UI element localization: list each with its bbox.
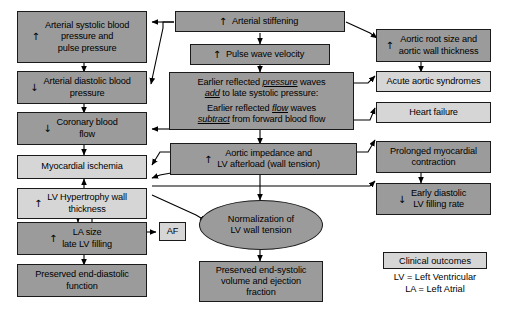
node-acute-aortic-syndromes[interactable]: Acute aortic syndromes (376, 71, 491, 92)
node-coronary-blood-flow[interactable]: ↓ Coronary blood flow (17, 112, 147, 145)
node-label: Normalization of LV wall tension (225, 214, 297, 237)
node-myocardial-ischemia[interactable]: Myocardial ischemia (17, 155, 147, 179)
reflected-pressure-line: Earlier reflected pressure waves add to … (197, 77, 325, 99)
node-heart-failure[interactable]: Heart failure (376, 102, 491, 123)
node-earlier-reflected-waves[interactable]: Earlier reflected pressure waves add to … (169, 72, 354, 130)
node-label: Prolonged myocardial contraction (387, 146, 480, 168)
node-lv-hypertrophy-wall-thickness[interactable]: ↑ LV Hypertrophy wall thickness (17, 188, 147, 219)
legend-abbreviations: LV = Left Ventricular LA = Left Atrial (370, 272, 500, 295)
node-prolonged-myocardial-contraction[interactable]: Prolonged myocardial contraction (376, 141, 491, 173)
increase-arrow-icon: ↑ (49, 234, 57, 243)
reflected-text-1a: Earlier reflected (197, 77, 262, 87)
node-label: Myocardial ischemia (38, 161, 125, 172)
node-arterial-diastolic-blood-pressure[interactable]: ↓ Arterial diastolic blood pressure (17, 71, 147, 104)
reflected-text-2b: to late systolic pressure: (220, 88, 318, 98)
reflected-text-4b: from forward blood flow (230, 114, 326, 124)
reflected-text-3c: waves (288, 103, 316, 113)
node-af[interactable]: AF (159, 222, 186, 241)
node-la-size-late-lv-filling[interactable]: ↑ LA size late LV filling (17, 222, 147, 255)
node-label: Preserved end-diastolic function (32, 269, 132, 291)
node-arterial-systolic-blood-pressure[interactable]: ↑ Arterial systolic blood pressure and p… (17, 11, 147, 63)
node-pulse-wave-velocity[interactable]: ↑ Pulse wave velocity (190, 44, 330, 65)
decrease-arrow-icon: ↓ (398, 195, 406, 204)
reflected-emphasis-subtract: subtract (198, 114, 230, 124)
node-preserved-end-systolic-volume[interactable]: Preserved end-systolic volume and ejecti… (199, 261, 323, 302)
increase-arrow-icon: ↑ (204, 155, 212, 164)
reflected-emphasis-add: add (205, 88, 220, 98)
legend-clinical-outcomes-box: Clinical outcomes (383, 252, 487, 269)
node-label: AF (164, 226, 182, 237)
node-normalization-lv-wall-tension[interactable]: Normalization of LV wall tension (199, 200, 323, 250)
node-label: Coronary blood flow (53, 117, 120, 139)
node-arterial-stiffening[interactable]: ↑ Arterial stiffening (175, 11, 345, 32)
node-label: Arterial systolic blood pressure and pul… (42, 20, 133, 54)
node-label: Pulse wave velocity (223, 49, 307, 60)
node-aortic-impedance-lv-afterload[interactable]: ↑ Aortic impedance and LV afterload (wal… (170, 143, 357, 175)
node-label: Arterial diastolic blood pressure (40, 76, 133, 98)
flowchart-canvas: ↑ Arterial systolic blood pressure and p… (0, 0, 507, 311)
legend-label: Clinical outcomes (399, 256, 471, 266)
reflected-text-1c: waves (298, 77, 326, 87)
node-early-diastolic-lv-filling-rate[interactable]: ↓ Early diastolic LV filling rate (376, 183, 491, 215)
node-label: LV Hypertrophy wall thickness (44, 192, 130, 214)
reflected-flow-line: Earlier reflected flow waves subtract fr… (198, 103, 326, 125)
node-preserved-end-diastolic-function[interactable]: Preserved end-diastolic function (17, 264, 147, 297)
increase-arrow-icon: ↑ (213, 50, 221, 59)
reflected-emphasis-pressure: pressure (263, 77, 298, 87)
node-label: LA size late LV filling (59, 227, 115, 249)
increase-arrow-icon: ↑ (34, 199, 42, 208)
reflected-emphasis-flow: flow (272, 103, 288, 113)
node-label: Acute aortic syndromes (384, 76, 484, 87)
reflected-text-3a: Earlier reflected (207, 103, 272, 113)
node-label: Heart failure (406, 107, 461, 118)
increase-arrow-icon: ↑ (386, 41, 394, 50)
node-label: Aortic root size and aortic wall thickne… (396, 34, 482, 56)
node-aortic-root-size-wall-thickness[interactable]: ↑ Aortic root size and aortic wall thick… (376, 29, 491, 62)
node-label: Preserved end-systolic volume and ejecti… (213, 265, 310, 299)
increase-arrow-icon: ↑ (219, 17, 227, 26)
node-label: Arterial stiffening (229, 16, 301, 27)
node-label: Aortic impedance and LV afterload (wall … (214, 148, 323, 170)
node-label: Early diastolic LV filling rate (408, 188, 469, 210)
decrease-arrow-icon: ↓ (43, 124, 51, 133)
increase-arrow-icon: ↑ (32, 32, 40, 41)
decrease-arrow-icon: ↓ (30, 83, 38, 92)
